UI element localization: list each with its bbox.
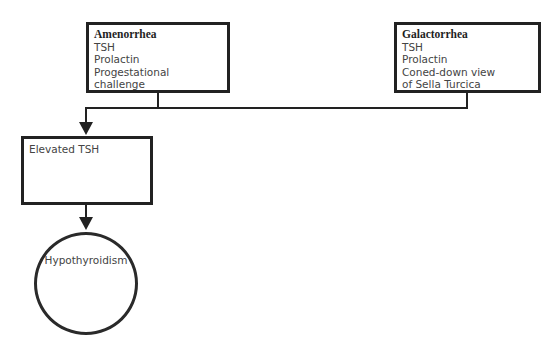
node-line: Coned-down view <box>402 66 533 79</box>
node-title: Amenorrhea <box>94 28 222 41</box>
node-hypothyroidism: Hypothyroidism <box>34 232 138 335</box>
node-line: Prolactin <box>402 53 533 66</box>
arrowhead-down-icon <box>79 217 93 230</box>
arrowhead-down-icon <box>79 122 93 135</box>
node-amenorrhea: Amenorrhea TSH Prolactin Progestational … <box>86 22 230 93</box>
node-galactorrhea: Galactorrhea TSH Prolactin Coned-down vi… <box>394 22 541 93</box>
node-line: TSH <box>402 41 533 54</box>
node-label: Hypothyroidism <box>37 254 135 266</box>
node-title: Galactorrhea <box>402 28 533 41</box>
node-line: Progestational challenge <box>94 66 222 91</box>
node-line: of Sella Turcica <box>402 78 533 91</box>
node-label: Elevated TSH <box>29 142 145 156</box>
node-line: TSH <box>94 41 222 54</box>
node-line: Prolactin <box>94 53 222 66</box>
node-elevated-tsh: Elevated TSH <box>21 136 153 205</box>
